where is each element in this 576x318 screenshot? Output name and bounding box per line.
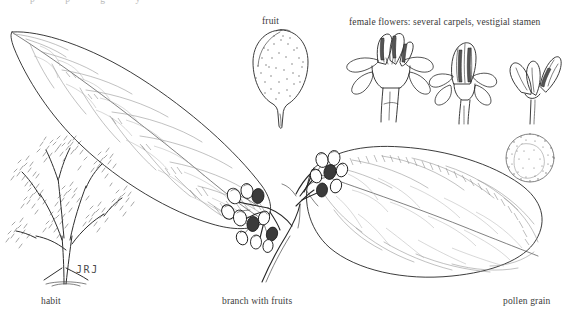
pollen-stipple xyxy=(506,133,553,181)
female-flower-open-figure xyxy=(347,33,434,122)
fruit-stipple xyxy=(255,35,303,99)
fruit-figure xyxy=(253,30,308,129)
label-branch-with-fruits: branch with fruits xyxy=(222,296,292,306)
female-flower-dissected-figure xyxy=(510,57,561,124)
label-pollen-grain: pollen grain xyxy=(503,296,550,306)
pollen-grain-figure xyxy=(506,133,554,182)
leaf-left-figure xyxy=(11,32,271,229)
label-female-flowers: female flowers: several carpels, vestigi… xyxy=(349,17,540,27)
artist-signature: JRJ xyxy=(76,264,99,275)
label-habit: habit xyxy=(41,296,61,306)
fruit-cluster-right xyxy=(300,150,350,206)
female-flower-bud-figure xyxy=(429,43,496,124)
branch-with-fruits-figure xyxy=(219,146,542,282)
label-fruit: fruit xyxy=(262,16,279,26)
cropped-top-caption: p p g y xyxy=(30,0,154,4)
botanical-plate: p p g y fruit female flowers: several ca… xyxy=(0,0,576,318)
habit-figure xyxy=(6,136,134,286)
fruit-cluster-left xyxy=(219,183,280,254)
